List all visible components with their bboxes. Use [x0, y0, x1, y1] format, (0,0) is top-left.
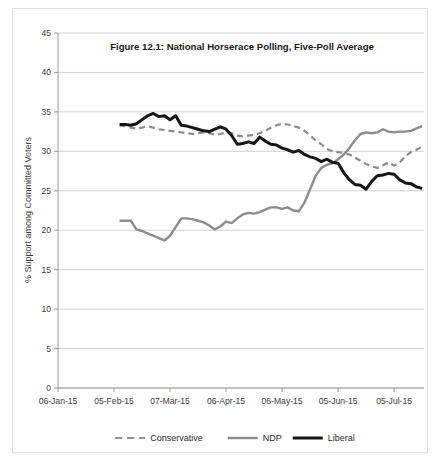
- x-tick-label-6: 05-Jul-15: [376, 396, 412, 406]
- y-tick-label-45: 45: [42, 28, 52, 38]
- legend-label-conservative: Conservative: [150, 433, 203, 443]
- legend-label-ndp: NDP: [263, 433, 282, 443]
- x-tick-label-5: 05-Jun-15: [319, 396, 358, 406]
- x-tick-label-2: 07-Mar-15: [150, 396, 190, 406]
- chart-title: Figure 12.1: National Horserace Polling,…: [110, 41, 374, 52]
- y-axis-title: % Support among Committed Voters: [23, 136, 33, 283]
- x-axis-tick-labels: 06-Jan-1505-Feb-1507-Mar-1506-Apr-1506-M…: [39, 396, 413, 406]
- chart-legend: ConservativeNDPLiberal: [115, 433, 355, 443]
- y-tick-label-0: 0: [46, 383, 51, 393]
- y-tick-label-10: 10: [42, 304, 52, 314]
- x-tick-label-1: 05-Feb-15: [94, 396, 134, 406]
- y-tick-label-40: 40: [42, 67, 52, 77]
- legend-label-liberal: Liberal: [328, 433, 355, 443]
- y-tick-label-15: 15: [42, 265, 52, 275]
- tick-marks-group: [54, 33, 394, 392]
- horserace-polling-chart: 051015202530354045 06-Jan-1505-Feb-1507-…: [0, 0, 440, 465]
- y-tick-label-25: 25: [42, 186, 52, 196]
- series-lines-group: [120, 113, 423, 240]
- y-tick-label-35: 35: [42, 107, 52, 117]
- y-tick-label-30: 30: [42, 146, 52, 156]
- x-tick-label-4: 06-May-15: [262, 396, 303, 406]
- x-tick-label-0: 06-Jan-15: [39, 396, 78, 406]
- y-tick-label-20: 20: [42, 225, 52, 235]
- figure-container: 051015202530354045 06-Jan-1505-Feb-1507-…: [0, 0, 440, 465]
- y-axis-tick-labels: 051015202530354045: [42, 28, 52, 393]
- series-line-conservative: [120, 124, 423, 168]
- x-tick-label-3: 06-Apr-15: [207, 396, 245, 406]
- y-tick-label-5: 5: [46, 344, 51, 354]
- gridlines-group: [58, 33, 424, 388]
